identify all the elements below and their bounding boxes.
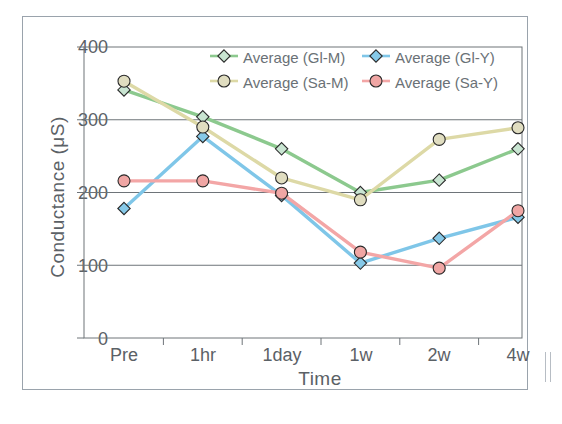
grid-lines	[84, 120, 522, 266]
data-point	[433, 174, 445, 186]
series-line	[124, 181, 518, 268]
legend-markers	[210, 50, 390, 87]
data-point	[197, 175, 209, 187]
data-point	[512, 205, 524, 217]
series-average-sa-m-	[118, 75, 524, 206]
data-point	[433, 232, 445, 244]
data-point	[118, 175, 130, 187]
data-point	[354, 194, 366, 206]
data-point	[197, 121, 209, 133]
data-point	[276, 187, 288, 199]
legend-marker	[218, 50, 230, 62]
legend-marker	[218, 75, 230, 87]
data-point	[433, 133, 445, 145]
data-point	[276, 172, 288, 184]
series-line	[124, 136, 518, 263]
data-point	[433, 262, 445, 274]
series-line	[124, 90, 518, 193]
data-series-layer	[118, 75, 524, 274]
data-point	[118, 75, 130, 87]
series-average-gl-y-	[118, 130, 524, 269]
data-point	[354, 246, 366, 258]
plot-area	[0, 0, 562, 424]
figure-canvas: Conductance (μS) Time 400 300 200 100 0 …	[0, 0, 562, 424]
legend-marker	[370, 50, 382, 62]
legend-marker	[370, 75, 382, 87]
data-point	[512, 122, 524, 134]
